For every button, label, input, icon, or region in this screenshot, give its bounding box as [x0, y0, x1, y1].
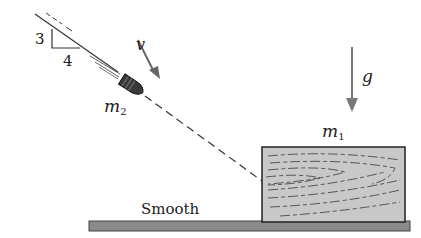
trajectory-dashed-line: [145, 96, 262, 181]
wooden-block: [262, 147, 405, 222]
trajectory-incoming-lines: [35, 13, 120, 79]
slope-rise-label: 3: [35, 30, 45, 48]
physics-diagram: 3 4 v m2 g Smooth: [0, 0, 421, 238]
slope-triangle: [52, 29, 80, 48]
surface-label: Smooth: [141, 200, 200, 218]
block-mass-label: m1: [322, 121, 345, 142]
slope-run-label: 4: [63, 52, 73, 70]
gravity-label: g: [362, 66, 373, 86]
gravity-arrow-icon: [346, 47, 358, 112]
bullet-icon: [119, 74, 147, 98]
velocity-label: v: [136, 35, 145, 54]
bullet-mass-label: m2: [104, 96, 127, 117]
